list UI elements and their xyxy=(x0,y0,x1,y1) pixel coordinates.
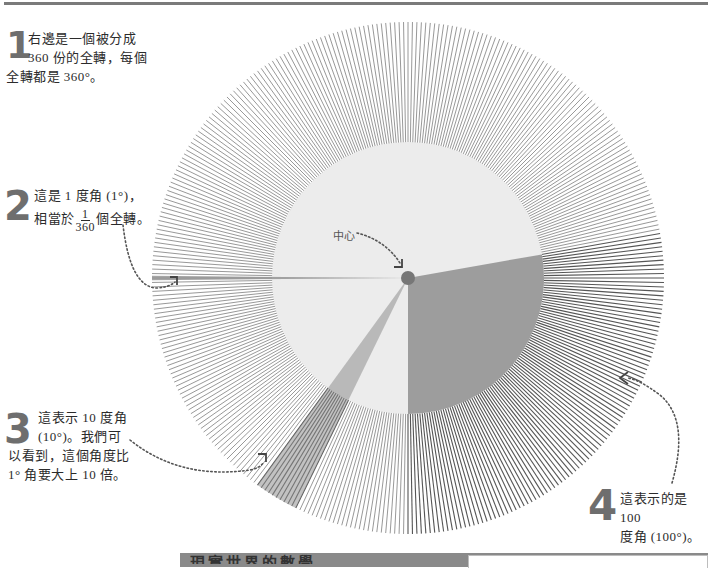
degree-ray xyxy=(350,409,377,528)
note-1: 右邊是一個被分成 360 份的全轉，每個 全轉都是 360°。 xyxy=(6,29,156,86)
degree-ray xyxy=(404,22,406,144)
note-2-suffix: 個全轉。 xyxy=(96,211,150,226)
degree-ray xyxy=(542,280,664,282)
center-label: 中心 xyxy=(333,227,355,243)
degree-ray xyxy=(172,330,284,378)
note-4-line-2: 度角 (100°)。 xyxy=(620,527,708,546)
note-3-line-3: 以看到，這個角度比 xyxy=(8,446,158,465)
degree-ray xyxy=(350,29,377,148)
degree-ray xyxy=(458,41,504,154)
degree-ray xyxy=(531,178,643,226)
note-3-line-4: 1° 角要大上 10 倍。 xyxy=(8,465,158,484)
note-3-line-2: (10°)。我們可 xyxy=(8,427,158,446)
step-number-2: 2 xyxy=(4,186,32,226)
degree-ray xyxy=(438,29,465,148)
banner-title: 現實世界的數學 xyxy=(190,550,316,564)
degree-ray xyxy=(532,182,645,228)
degree-ray xyxy=(312,41,358,154)
note-3: 這表示 10 度角 (10°)。我們可 以看到，這個角度比 1° 角要大上 10… xyxy=(8,408,158,484)
degree-ray xyxy=(372,411,389,532)
degree-ray xyxy=(531,330,643,378)
degree-ray xyxy=(172,178,284,226)
degree-ray xyxy=(372,24,389,145)
section-banner: 現實世界的數學 xyxy=(180,553,708,567)
degree-ray xyxy=(404,412,406,534)
note-1-line-1: 右邊是一個被分成 xyxy=(6,29,156,48)
degree-ray xyxy=(410,22,412,144)
degree-ray xyxy=(159,308,278,335)
fraction-1-360: 1360 xyxy=(76,208,96,233)
note-2-line-2: 相當於1360個全轉。 xyxy=(34,208,164,233)
degree-ray xyxy=(542,274,664,276)
step-number-4: 4 xyxy=(588,485,617,527)
degree-ray xyxy=(171,182,284,228)
degree-ray xyxy=(539,220,658,247)
note-2: 這是 1 度角 (1°)， 相當於1360個全轉。 xyxy=(34,186,164,233)
degree-ray xyxy=(159,220,278,247)
fraction-denominator: 360 xyxy=(76,221,96,233)
degree-ray xyxy=(308,42,356,154)
note-3-line-1: 這表示 10 度角 xyxy=(8,408,158,427)
degree-ray xyxy=(532,328,645,374)
degree-ray xyxy=(460,401,508,513)
degree-ray xyxy=(460,42,508,154)
degree-ray xyxy=(154,297,275,314)
note-1-line-2: 360 份的全轉，每個 xyxy=(6,48,156,67)
degree-ray xyxy=(410,412,412,534)
degree-ray xyxy=(427,24,444,145)
note-1-line-3: 全轉都是 360°。 xyxy=(6,67,156,86)
degree-ray xyxy=(152,280,274,282)
degree-ray xyxy=(171,328,284,374)
note-4-line-1: 這表示的是 100 xyxy=(620,489,708,527)
center-dot xyxy=(401,271,415,285)
degree-ray xyxy=(154,242,275,259)
note-4: 這表示的是 100 度角 (100°)。 xyxy=(620,489,708,546)
degree-ray xyxy=(458,402,504,515)
note-2-prefix: 相當於 xyxy=(34,211,75,226)
banner-box xyxy=(468,555,708,568)
note-2-line-1: 這是 1 度角 (1°)， xyxy=(34,186,164,205)
degree-ray xyxy=(152,274,274,276)
